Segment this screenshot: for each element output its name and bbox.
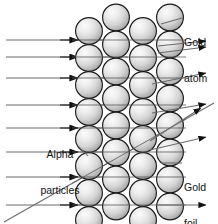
gold-atom-sphere xyxy=(130,207,157,224)
gold-atom-sphere xyxy=(130,72,157,99)
alpha-particles-label: Alpha particles xyxy=(29,124,91,220)
gold-atom-sphere xyxy=(103,139,130,166)
gold-atom-sphere xyxy=(103,4,130,31)
gold-atom-sphere xyxy=(130,180,157,207)
gold-foil-label-line1: Gold xyxy=(184,181,206,193)
gold-atom-sphere xyxy=(76,45,103,72)
gold-atom-sphere xyxy=(103,193,130,220)
gold-atom-sphere xyxy=(103,166,130,193)
foil-column-3 xyxy=(130,18,157,224)
alpha-particles-label-line1: Alpha xyxy=(29,148,91,160)
gold-atom-sphere xyxy=(130,99,157,126)
gold-atom-sphere xyxy=(76,72,103,99)
gold-foil-lattice xyxy=(76,4,184,224)
gold-atom-sphere xyxy=(103,112,130,139)
gold-atom-sphere xyxy=(103,85,130,112)
gold-atom-label: Gold atom xyxy=(184,12,207,108)
rutherford-gold-foil-diagram: Gold atom Gold foil Alpha particles xyxy=(0,0,218,224)
gold-atom-sphere xyxy=(103,58,130,85)
alpha-particles-label-line2: particles xyxy=(29,184,91,196)
gold-atom-sphere xyxy=(157,166,184,193)
gold-atom-label-line1: Gold xyxy=(184,36,207,48)
foil-column-2 xyxy=(103,4,130,220)
gold-atom-sphere xyxy=(130,45,157,72)
gold-atom-sphere xyxy=(103,31,130,58)
gold-atom-sphere xyxy=(157,112,184,139)
gold-atom-sphere xyxy=(76,99,103,126)
gold-atom-label-line2: atom xyxy=(184,72,207,84)
gold-atom-sphere xyxy=(157,4,184,31)
gold-atom-sphere xyxy=(157,85,184,112)
gold-atom-sphere xyxy=(157,58,184,85)
gold-foil-label: Gold foil xyxy=(184,157,206,224)
gold-atom-sphere xyxy=(130,153,157,180)
gold-atom-sphere xyxy=(157,193,184,220)
gold-foil-label-line2: foil xyxy=(184,217,206,224)
